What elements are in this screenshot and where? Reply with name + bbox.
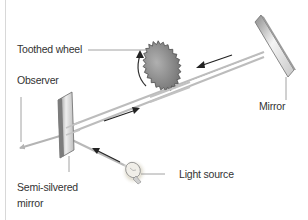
label-observer: Observer bbox=[17, 74, 59, 87]
label-light-source: Light source bbox=[179, 168, 234, 181]
far-mirror bbox=[255, 15, 296, 77]
incoming-beam bbox=[70, 139, 128, 167]
label-semi-silvered-line1: Semi-silvered bbox=[17, 181, 78, 194]
label-toothed-wheel: Toothed wheel bbox=[17, 43, 82, 56]
label-mirror: Mirror bbox=[259, 100, 285, 113]
toothed-wheel bbox=[136, 35, 189, 97]
arrow-toward-semi-mirror-icon bbox=[92, 148, 120, 162]
light-bulb-icon bbox=[121, 159, 147, 185]
arrow-toward-far-mirror-icon bbox=[104, 107, 140, 121]
label-semi-silvered-line2: mirror bbox=[17, 197, 43, 210]
